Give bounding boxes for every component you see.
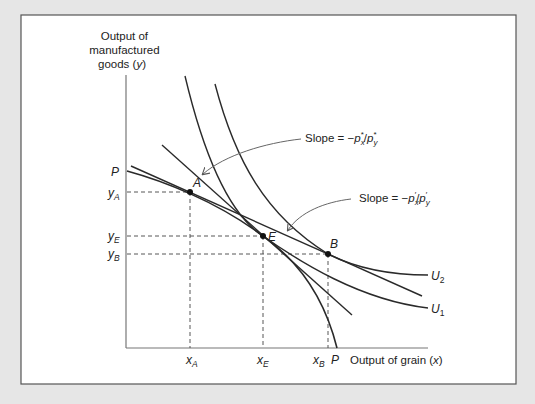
trade-equilibrium-diagram: Output of manufactured goods (y) Output … (0, 0, 535, 404)
diagram-stage: Output of manufactured goods (y) Output … (0, 0, 535, 404)
point-E-label: E (268, 230, 277, 244)
point-A-label: A (192, 176, 201, 190)
y-intercept-P-label: P (111, 165, 119, 179)
figure-panel (21, 15, 516, 384)
x-intercept-P-label: P (331, 353, 339, 367)
point-E-marker (260, 233, 266, 239)
point-B-label: B (330, 237, 338, 251)
x-axis-label: Output of grain (x) (350, 354, 443, 366)
point-B-marker (325, 251, 331, 257)
